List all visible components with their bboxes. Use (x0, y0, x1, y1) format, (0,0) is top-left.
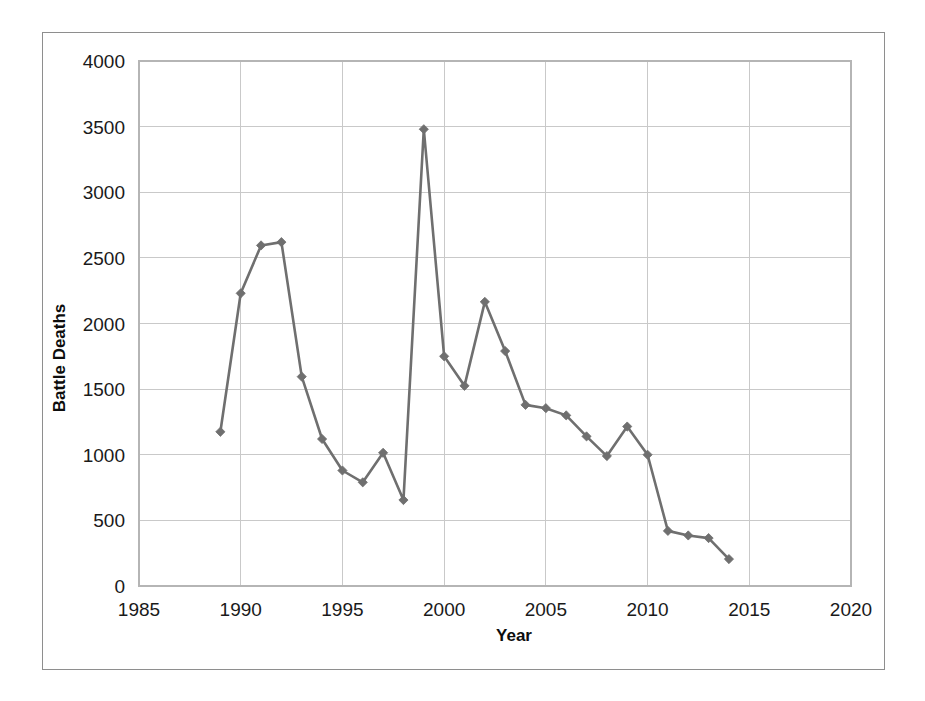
y-axis-tick-labels: 05001000150020002500300035004000 (83, 51, 125, 597)
x-tick-1990: 1990 (220, 599, 262, 620)
battle-deaths-line-chart: 05001000150020002500300035004000 1985199… (43, 33, 886, 671)
data-point-1990 (236, 289, 245, 298)
data-point-2002 (480, 297, 489, 306)
data-point-2011 (663, 526, 672, 535)
y-tick-1000: 1000 (83, 445, 125, 466)
x-tick-1995: 1995 (321, 599, 363, 620)
figure-frame: 05001000150020002500300035004000 1985199… (42, 32, 885, 670)
x-tick-2000: 2000 (423, 599, 465, 620)
x-tick-1985: 1985 (118, 599, 160, 620)
y-axis-title: Battle Deaths (50, 304, 69, 413)
data-point-1999 (419, 125, 428, 134)
series-line-battle-deaths (220, 129, 729, 559)
y-tick-4000: 4000 (83, 51, 125, 72)
y-tick-2000: 2000 (83, 314, 125, 335)
data-point-2004 (521, 400, 530, 409)
y-tick-500: 500 (93, 510, 125, 531)
x-axis-title: Year (496, 626, 532, 645)
data-point-1993 (297, 372, 306, 381)
data-point-1991 (256, 241, 265, 250)
data-point-2003 (501, 346, 510, 355)
data-point-1998 (399, 495, 408, 504)
chart-area: 05001000150020002500300035004000 1985199… (43, 33, 886, 671)
y-tick-3000: 3000 (83, 182, 125, 203)
x-tick-2005: 2005 (525, 599, 567, 620)
x-axis-tick-labels: 19851990199520002005201020152020 (118, 599, 872, 620)
data-point-2012 (684, 531, 693, 540)
y-tick-1500: 1500 (83, 379, 125, 400)
y-tick-2500: 2500 (83, 248, 125, 269)
x-tick-2020: 2020 (830, 599, 872, 620)
data-point-1992 (277, 238, 286, 247)
x-tick-2015: 2015 (728, 599, 770, 620)
y-tick-3500: 3500 (83, 117, 125, 138)
data-point-1989 (216, 427, 225, 436)
x-tick-2010: 2010 (626, 599, 668, 620)
y-tick-0: 0 (114, 576, 125, 597)
data-point-2005 (541, 404, 550, 413)
